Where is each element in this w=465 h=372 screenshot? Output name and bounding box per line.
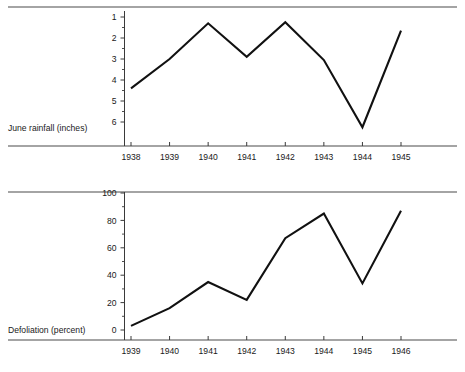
x-tick-label: 1946 [391,346,410,356]
y-tick-label: 100 [102,188,117,198]
rainfall-data-line [131,22,401,127]
x-tick-label: 1944 [353,152,372,162]
y-tick-label: 1 [112,12,117,22]
x-tick-label: 1942 [276,152,295,162]
rainfall-panel: 123456 19381939194019411942194319441945 … [0,0,465,178]
x-ticks [131,142,401,146]
y-tick-label: 40 [107,270,117,280]
defoliation-axis-caption: Defoliation (percent) [8,325,86,335]
x-tick-label: 1945 [353,346,372,356]
x-tick-label: 1939 [160,152,179,162]
y-tick-label: 60 [107,243,117,253]
x-tick-label: 1939 [121,346,140,356]
y-tick-label: 2 [112,33,117,43]
x-ticks [131,336,401,340]
y-tick-label: 80 [107,216,117,226]
x-tick-labels: 19391940194119421943194419451946 [121,346,410,356]
y-tick-label: 6 [112,117,117,127]
defoliation-chart-svg: 020406080100 193919401941194219431944194… [0,178,465,372]
y-tick-label: 0 [112,325,117,335]
y-tick-label: 5 [112,96,117,106]
x-tick-label: 1943 [314,152,333,162]
y-tick-label: 4 [112,75,117,85]
rainfall-chart-svg: 123456 19381939194019411942194319441945 … [0,0,465,178]
x-tick-label: 1940 [160,346,179,356]
y-tick-label: 3 [112,54,117,64]
x-tick-label: 1945 [391,152,410,162]
x-tick-label: 1938 [121,152,140,162]
y-tick-labels: 123456 [112,12,117,127]
y-tick-labels: 020406080100 [102,188,117,335]
x-tick-label: 1940 [199,152,218,162]
y-ticks [121,193,125,330]
y-tick-label: 20 [107,298,117,308]
x-tick-label: 1944 [314,346,333,356]
defoliation-data-line [131,211,401,326]
x-tick-label: 1941 [199,346,218,356]
rainfall-axis-caption: June rainfall (inches) [8,123,87,133]
x-tick-label: 1943 [276,346,295,356]
x-tick-label: 1942 [237,346,256,356]
defoliation-panel: 020406080100 193919401941194219431944194… [0,178,465,372]
y-ticks [121,17,125,122]
x-tick-label: 1941 [237,152,256,162]
x-tick-labels: 19381939194019411942194319441945 [121,152,410,162]
